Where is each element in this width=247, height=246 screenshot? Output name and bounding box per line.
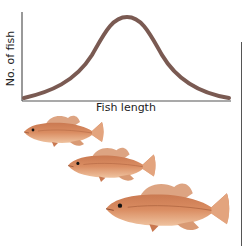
medium-fish <box>68 148 155 182</box>
bell-curve <box>24 17 229 98</box>
small-fish <box>24 116 104 147</box>
y-axis-label: No. of fish <box>2 20 20 96</box>
large-fish <box>106 183 229 232</box>
y-axis-label-text: No. of fish <box>5 30 18 86</box>
diagram-canvas <box>0 0 247 246</box>
x-axis-label: Fish length <box>22 101 230 114</box>
